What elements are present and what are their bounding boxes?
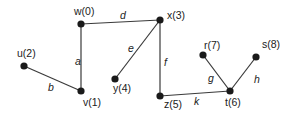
graph-diagram: abdefghk w(0)x(3)u(2)v(1)y(4)z(5)t(6)r(7… bbox=[0, 0, 294, 117]
edge-label-g: g bbox=[208, 72, 214, 84]
edge-h bbox=[230, 57, 256, 91]
node-label-w: w(0) bbox=[73, 5, 94, 17]
edges-layer: abdefghk bbox=[24, 9, 260, 107]
node-x bbox=[156, 16, 163, 23]
node-label-y: y(4) bbox=[113, 82, 131, 94]
node-u bbox=[20, 62, 27, 69]
edge-label-e: e bbox=[128, 42, 134, 54]
node-label-r: r(7) bbox=[204, 39, 220, 51]
node-v bbox=[77, 87, 84, 94]
node-t bbox=[226, 87, 233, 94]
node-label-s: s(8) bbox=[262, 38, 280, 50]
node-z bbox=[156, 92, 163, 99]
node-label-v: v(1) bbox=[83, 96, 101, 108]
edge-label-a: a bbox=[75, 55, 81, 67]
node-label-x: x(3) bbox=[167, 9, 185, 21]
node-label-u: u(2) bbox=[17, 47, 36, 59]
edge-label-k: k bbox=[194, 95, 200, 107]
node-w bbox=[77, 20, 84, 27]
node-label-t: t(6) bbox=[225, 96, 241, 108]
edge-label-f: f bbox=[164, 56, 168, 68]
edge-label-d: d bbox=[120, 9, 127, 21]
node-label-z: z(5) bbox=[164, 98, 182, 110]
edge-e bbox=[115, 20, 160, 79]
node-r bbox=[199, 51, 206, 58]
edge-label-b: b bbox=[48, 81, 54, 93]
node-s bbox=[252, 53, 259, 60]
edge-label-h: h bbox=[254, 73, 260, 85]
